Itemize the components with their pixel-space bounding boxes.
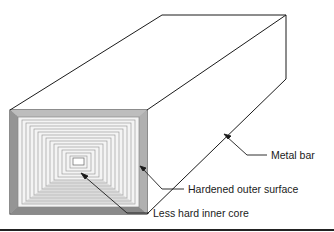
label-metal-bar: Metal bar [271, 150, 315, 161]
front-face-cross-section [10, 110, 147, 214]
metal-bar-diagram [0, 0, 334, 232]
label-less-hard-inner-core: Less hard inner core [153, 208, 249, 219]
bottom-divider [0, 229, 334, 231]
label-hardened-outer-surface: Hardened outer surface [188, 184, 298, 195]
